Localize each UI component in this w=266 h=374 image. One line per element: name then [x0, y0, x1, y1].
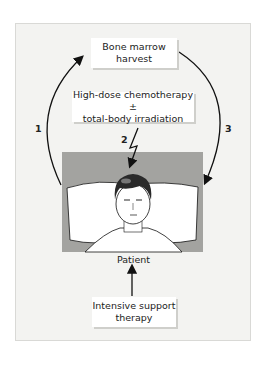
support-line2: therapy — [116, 312, 153, 324]
support-line1: Intensive support — [93, 300, 176, 312]
step-3-label: 3 — [225, 123, 232, 134]
harvest-line1: Bone marrow — [102, 41, 165, 53]
patient-label: Patient — [117, 254, 150, 265]
harvest-line2: harvest — [116, 53, 152, 65]
step-2-label: 2 — [121, 134, 128, 145]
bone-marrow-harvest-box: Bone marrow harvest — [91, 38, 177, 68]
chemotherapy-box: High-dose chemotherapy ± total-body irra… — [72, 92, 194, 122]
chemo-line1: High-dose chemotherapy ± — [72, 89, 194, 113]
intensive-support-box: Intensive support therapy — [92, 297, 176, 327]
step-1-label: 1 — [35, 123, 42, 134]
chemo-line2: total-body irradiation — [83, 113, 183, 125]
